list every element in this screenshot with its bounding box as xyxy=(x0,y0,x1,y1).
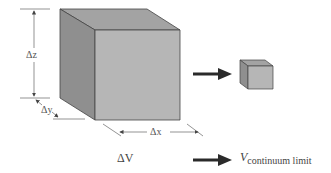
arrow-to-small-cube xyxy=(193,68,232,80)
dz-label: Δz xyxy=(26,49,37,60)
arrow-to-limit xyxy=(193,154,232,166)
continuum-limit-label: Vcontinuum limit xyxy=(240,150,312,165)
diagram-graphics xyxy=(0,0,331,173)
dx-label: Δx xyxy=(150,126,161,137)
large-cube xyxy=(60,9,180,120)
small-cube xyxy=(240,60,273,89)
volume-label: ΔV xyxy=(117,151,133,166)
dy-label: Δy xyxy=(41,104,52,115)
limit-subscript: continuum limit xyxy=(247,155,311,166)
continuum-limit-diagram: Δz Δy Δx ΔV Vcontinuum limit xyxy=(0,0,331,173)
